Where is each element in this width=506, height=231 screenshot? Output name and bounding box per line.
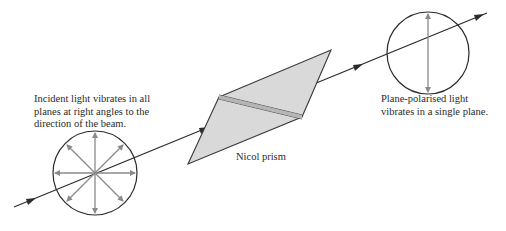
diagram-canvas: Incident light vibrates in all planes at… — [0, 0, 506, 231]
nicol-prism — [188, 50, 331, 164]
nicol-prism-label: Nicol prism — [236, 151, 286, 164]
beam-arrow-icon — [26, 198, 36, 205]
polarised-light-symbol — [387, 12, 469, 94]
unpolarised-light-symbol — [53, 131, 137, 215]
beam-arrow-icon — [353, 64, 363, 71]
incident-light-label: Incident light vibrates in all planes at… — [34, 93, 150, 131]
polarised-light-label: Plane-polarised light vibrates in a sing… — [381, 93, 488, 118]
beam-arrow-icon — [474, 14, 484, 21]
